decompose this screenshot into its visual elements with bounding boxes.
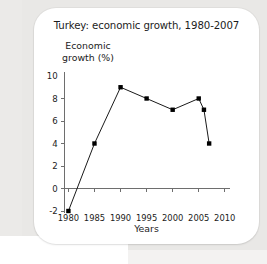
plot-area: -20246810 1980198519901995200020052010 1… xyxy=(34,8,259,244)
x-axis-tick-label: 2000 xyxy=(162,213,183,223)
data-point-markers: 1980: -21985: 41990: 91995: 82000: 72005… xyxy=(66,85,211,213)
data-point-marker: 2007: 4 xyxy=(207,141,211,145)
y-axis-tick-label: 6 xyxy=(52,116,57,126)
data-point-marker: 2000: 7 xyxy=(170,108,174,112)
y-axis-tick-label: 8 xyxy=(52,94,57,104)
x-axis-tick-label: 1990 xyxy=(110,213,131,223)
y-axis: -20246810 xyxy=(47,71,65,216)
chart-card: Turkey: economic growth, 1980-2007 Econo… xyxy=(34,8,259,244)
data-point-marker: 1990: 9 xyxy=(118,85,122,89)
y-axis-tick-label: -2 xyxy=(49,206,58,216)
data-series-line xyxy=(68,87,209,211)
x-axis-tick-label: 1985 xyxy=(84,213,105,223)
screenshot-root: Turkey: economic growth, 1980-2007 Econo… xyxy=(0,0,267,264)
background-strip-left xyxy=(0,0,22,264)
y-axis-tick-label: 2 xyxy=(52,161,57,171)
data-point-marker: 1985: 4 xyxy=(92,141,96,145)
x-axis-tick-label: 1980 xyxy=(58,213,79,223)
x-axis-label: Years xyxy=(34,223,259,234)
x-axis-tick-label: 2005 xyxy=(188,213,209,223)
data-point-marker: 1980: -2 xyxy=(66,209,70,213)
data-point-marker: 2005: 8 xyxy=(197,96,201,100)
y-axis-tick-label: 4 xyxy=(52,139,57,149)
line-chart-svg: -20246810 1980198519901995200020052010 1… xyxy=(34,8,259,244)
series-polyline xyxy=(68,87,209,211)
y-axis-tick-label: 10 xyxy=(47,71,58,81)
data-point-marker: 2006: 7 xyxy=(202,108,206,112)
x-axis: 1980198519901995200020052010 xyxy=(58,189,236,223)
x-axis-tick-label: 2010 xyxy=(214,213,235,223)
x-axis-tick-label: 1995 xyxy=(136,213,157,223)
data-point-marker: 1995: 8 xyxy=(144,96,148,100)
y-axis-tick-label: 0 xyxy=(52,184,57,194)
